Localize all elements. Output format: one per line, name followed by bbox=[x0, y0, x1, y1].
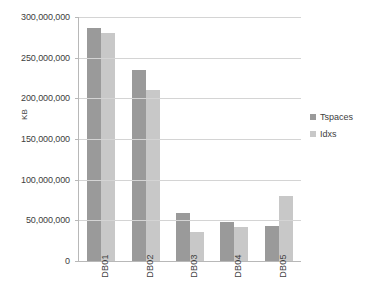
x-axis-tick-label: DB02 bbox=[145, 254, 155, 277]
gridline bbox=[79, 58, 301, 59]
y-axis-tickmark bbox=[75, 98, 79, 99]
y-axis-tickmark bbox=[75, 58, 79, 59]
x-axis-label-cell: DB01 bbox=[78, 262, 122, 298]
x-axis-tick-labels: DB01DB02DB03DB04DB05 bbox=[78, 262, 300, 298]
legend-swatch-icon bbox=[310, 114, 316, 120]
x-axis-label-cell: DB03 bbox=[167, 262, 211, 298]
bar-chart: KB 050,000,000100,000,000150,000,000200,… bbox=[0, 0, 370, 298]
legend-item[interactable]: Tspaces bbox=[310, 112, 353, 122]
x-axis-label-cell: DB04 bbox=[211, 262, 255, 298]
gridline bbox=[79, 98, 301, 99]
x-axis-tick-label: DB05 bbox=[278, 254, 288, 277]
x-axis-tick-label: DB04 bbox=[233, 254, 243, 277]
plot-area bbox=[78, 17, 301, 261]
bar[interactable] bbox=[265, 226, 279, 261]
bar[interactable] bbox=[101, 33, 115, 261]
x-axis-label-cell: DB02 bbox=[122, 262, 166, 298]
legend-label: Idxs bbox=[320, 129, 337, 139]
y-axis-tickmark bbox=[75, 139, 79, 140]
legend-label: Tspaces bbox=[320, 112, 353, 122]
bar[interactable] bbox=[87, 28, 101, 261]
legend-swatch-icon bbox=[310, 131, 316, 137]
y-axis-tickmark bbox=[75, 180, 79, 181]
y-axis-tick-label: 250,000,000 bbox=[21, 53, 70, 63]
gridline bbox=[79, 180, 301, 181]
bar[interactable] bbox=[146, 90, 160, 261]
chart-legend: TspacesIdxs bbox=[310, 112, 353, 139]
gridline bbox=[79, 139, 301, 140]
y-axis-tickmark bbox=[75, 17, 79, 18]
y-axis-tick-label: 50,000,000 bbox=[26, 215, 70, 225]
y-axis-tick-label: 300,000,000 bbox=[21, 12, 70, 22]
x-axis-tick-label: DB03 bbox=[189, 254, 199, 277]
y-axis-tick-label: 0 bbox=[65, 256, 70, 266]
gridline bbox=[79, 17, 301, 18]
y-axis-tick-label: 200,000,000 bbox=[21, 93, 70, 103]
legend-item[interactable]: Idxs bbox=[310, 129, 353, 139]
y-axis-tick-labels: 050,000,000100,000,000150,000,000200,000… bbox=[0, 0, 78, 298]
y-axis-tick-label: 150,000,000 bbox=[21, 134, 70, 144]
y-axis-tickmark bbox=[75, 220, 79, 221]
bar[interactable] bbox=[279, 196, 293, 261]
x-axis-tick-label: DB01 bbox=[100, 254, 110, 277]
x-axis-label-cell: DB05 bbox=[256, 262, 300, 298]
gridline bbox=[79, 220, 301, 221]
y-axis-tick-label: 100,000,000 bbox=[21, 175, 70, 185]
